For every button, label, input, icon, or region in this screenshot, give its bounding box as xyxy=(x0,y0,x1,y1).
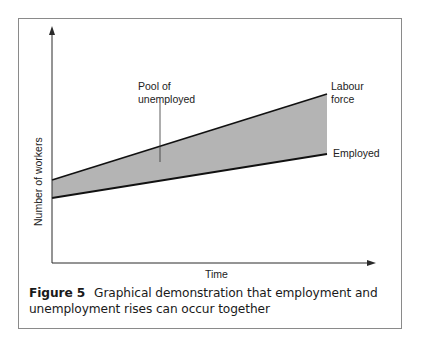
figure-label: Figure 5 xyxy=(29,286,85,300)
unemployed-pool-area xyxy=(52,94,327,198)
pool-label-line2: unemployed xyxy=(138,93,195,105)
labour-force-label-line2: force xyxy=(331,93,355,105)
x-axis-label: Time xyxy=(205,268,228,280)
caption-line1: Graphical demonstration that employment … xyxy=(94,286,377,300)
employed-label: Employed xyxy=(333,147,380,159)
pool-label-line1: Pool of xyxy=(138,80,171,92)
x-axis-arrow-icon xyxy=(367,260,376,266)
figure-caption: Figure 5Graphical demonstration that emp… xyxy=(29,285,399,317)
y-axis-arrow-icon xyxy=(49,26,55,35)
labour-force-label-line1: Labour xyxy=(331,80,364,92)
y-axis-label: Number of workers xyxy=(32,137,44,226)
caption-line2: unemployment rises can occur together xyxy=(29,302,270,316)
pool-label-text: Pool of xyxy=(138,80,171,92)
